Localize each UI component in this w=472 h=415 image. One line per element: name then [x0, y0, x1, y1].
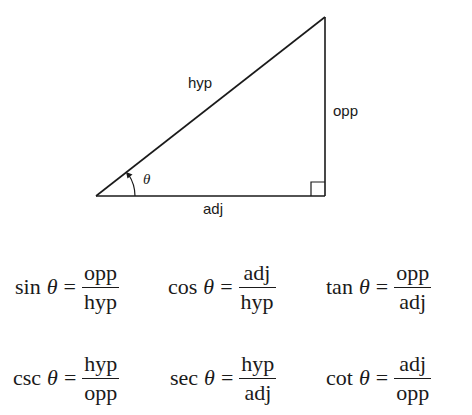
numerator: hyp: [239, 353, 276, 378]
theta-symbol: θ: [47, 274, 58, 300]
function-name: tan: [326, 274, 353, 300]
numerator: adj: [397, 353, 428, 378]
denominator: opp: [82, 379, 119, 404]
opposite-label: opp: [333, 103, 358, 118]
equals-sign: =: [221, 365, 233, 391]
fraction: adj hyp: [239, 262, 276, 313]
arc-arrowhead-icon: [126, 172, 133, 179]
equals-sign: =: [220, 274, 232, 300]
equals-sign: =: [376, 365, 388, 391]
equals-sign: =: [64, 274, 76, 300]
fraction: hyp opp: [82, 353, 119, 404]
fraction: opp adj: [394, 262, 431, 313]
function-name: sin: [15, 274, 41, 300]
numerator: opp: [82, 262, 119, 287]
trig-ratios-figure: hyp opp adj θ sin θ = opp hyp cos θ = ad…: [0, 0, 472, 415]
denominator: adj: [242, 379, 273, 404]
angle-arc-icon: [129, 175, 136, 197]
denominator: adj: [397, 288, 428, 313]
function-name: sec: [170, 365, 198, 391]
right-angle-marker-icon: [311, 182, 325, 196]
right-triangle-diagram: [0, 0, 472, 230]
theta-symbol: θ: [359, 365, 370, 391]
denominator: opp: [394, 379, 431, 404]
hypotenuse-label: hyp: [188, 75, 212, 90]
theta-symbol: θ: [203, 274, 214, 300]
denominator: hyp: [82, 288, 119, 313]
numerator: adj: [242, 262, 273, 287]
formula-sin: sin θ = opp hyp: [15, 257, 119, 317]
formula-sec: sec θ = hyp adj: [170, 348, 276, 408]
theta-symbol: θ: [47, 365, 58, 391]
theta-symbol: θ: [204, 365, 215, 391]
equals-sign: =: [64, 365, 76, 391]
equals-sign: =: [376, 274, 388, 300]
theta-symbol: θ: [359, 274, 370, 300]
fraction: hyp adj: [239, 353, 276, 404]
fraction: opp hyp: [82, 262, 119, 313]
fraction: adj opp: [394, 353, 431, 404]
function-name: cos: [168, 274, 197, 300]
adjacent-label: adj: [203, 201, 223, 216]
formula-cot: cot θ = adj opp: [326, 348, 431, 408]
numerator: opp: [394, 262, 431, 287]
formula-cos: cos θ = adj hyp: [168, 257, 276, 317]
angle-label: θ: [143, 172, 150, 187]
function-name: csc: [13, 365, 41, 391]
function-name: cot: [326, 365, 353, 391]
hypotenuse-line: [96, 17, 325, 196]
formula-tan: tan θ = opp adj: [326, 257, 431, 317]
formula-csc: csc θ = hyp opp: [13, 348, 119, 408]
denominator: hyp: [239, 288, 276, 313]
numerator: hyp: [82, 353, 119, 378]
